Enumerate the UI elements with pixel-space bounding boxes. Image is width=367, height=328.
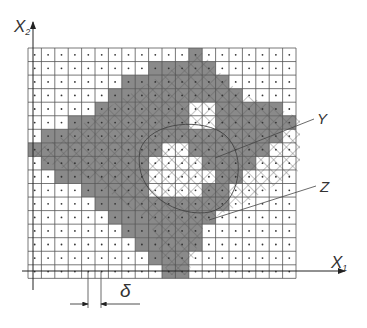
delta-label: δ	[120, 280, 131, 301]
grid-diagram: X2 X1 Y Z δ	[0, 0, 367, 328]
grid-lines	[28, 48, 296, 278]
x2-axis-label: X2	[13, 17, 30, 37]
y-label: Y	[317, 110, 328, 127]
crosshatch-region	[28, 52, 300, 275]
z-label: Z	[319, 178, 330, 195]
x1-axis-label: X1	[330, 253, 347, 273]
